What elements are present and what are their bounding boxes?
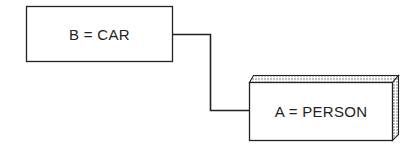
node-a-side-bevel <box>393 76 399 141</box>
node-a-label: A = PERSON <box>249 82 393 141</box>
connector-b-to-a <box>173 35 250 111</box>
node-b-label: B = CAR <box>26 6 173 62</box>
